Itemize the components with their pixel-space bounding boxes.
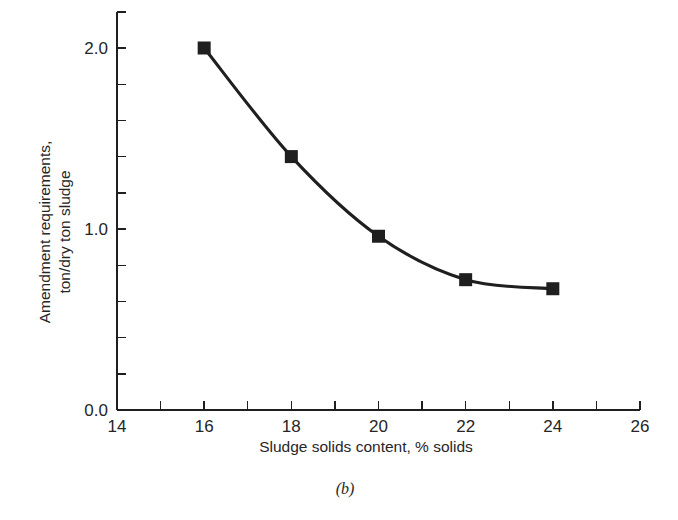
x-axis-tick-labels: 14161820222426 bbox=[108, 417, 650, 436]
data-point-marker bbox=[372, 230, 385, 243]
series-group bbox=[198, 42, 560, 296]
x-tick-label: 14 bbox=[108, 417, 127, 436]
y-axis-title-line1: Amendment requirements, bbox=[36, 141, 53, 324]
x-tick-label: 22 bbox=[456, 417, 475, 436]
x-tick-label: 26 bbox=[631, 417, 650, 436]
data-line bbox=[204, 48, 553, 289]
data-point-marker bbox=[198, 42, 211, 55]
x-axis-ticks bbox=[117, 401, 640, 410]
data-point-marker bbox=[285, 150, 298, 163]
data-point-marker bbox=[459, 273, 472, 286]
axes-group: 0.01.02.0 14161820222426 bbox=[84, 12, 649, 436]
x-tick-label: 16 bbox=[195, 417, 214, 436]
y-tick-label: 0.0 bbox=[84, 401, 108, 420]
data-markers bbox=[198, 42, 560, 296]
x-axis-title: Sludge solids content, % solids bbox=[259, 438, 473, 455]
figure-container: 0.01.02.0 14161820222426 Sludge solids c… bbox=[0, 0, 678, 520]
x-tick-label: 24 bbox=[543, 417, 562, 436]
chart-plot: 0.01.02.0 14161820222426 Sludge solids c… bbox=[0, 0, 678, 520]
figure-caption: (b) bbox=[336, 480, 355, 498]
x-tick-label: 18 bbox=[282, 417, 301, 436]
y-axis-ticks bbox=[117, 12, 126, 410]
y-axis-tick-labels: 0.01.02.0 bbox=[84, 39, 108, 420]
y-tick-label: 2.0 bbox=[84, 39, 108, 58]
y-axis-title-line2: ton/dry ton sludge bbox=[56, 170, 73, 293]
data-point-marker bbox=[546, 282, 559, 295]
x-tick-label: 20 bbox=[369, 417, 388, 436]
y-tick-label: 1.0 bbox=[84, 220, 108, 239]
